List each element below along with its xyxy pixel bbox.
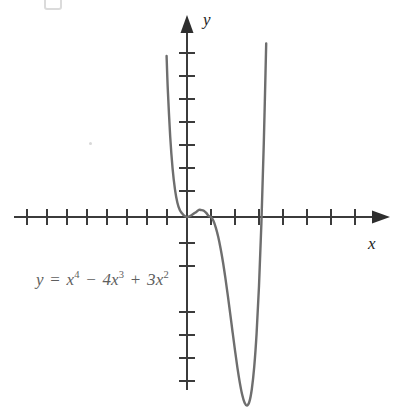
x-axis-arrow-icon	[372, 211, 390, 224]
equation-term3-exponent: 2	[163, 269, 168, 280]
equation-term1-exponent: 4	[74, 269, 79, 280]
y-axis-label: y	[203, 11, 211, 28]
equation-term2-exponent: 3	[119, 269, 124, 280]
x-axis-label: x	[368, 235, 376, 252]
equation-plus: +	[129, 270, 143, 289]
equation-annotation: y = x4 − 4x3 + 3x2	[36, 271, 169, 288]
equation-term3-coefficient: 3x	[147, 270, 163, 289]
quartic-curve	[167, 43, 267, 405]
figure-container: y x y = x4 − 4x3 + 3x2	[0, 0, 402, 415]
equation-lhs: y	[36, 270, 44, 289]
y-axis-arrow-icon	[181, 15, 194, 33]
equation-equals: =	[48, 270, 62, 289]
equation-term2-coefficient: 4x	[102, 270, 118, 289]
coordinate-plot	[0, 0, 402, 415]
equation-minus: −	[84, 270, 98, 289]
